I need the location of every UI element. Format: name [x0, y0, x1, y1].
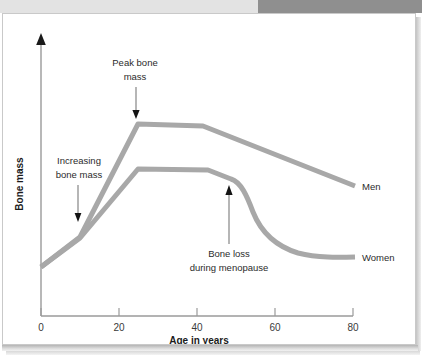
- figure-panel: 0 20 40 60 80 Age in years Bone mass Men…: [2, 13, 416, 345]
- series-line-men: [41, 124, 355, 267]
- top-decorative-strip-dark: [258, 0, 422, 13]
- annotation-increasing-bone-mass-line1: Increasing: [57, 155, 101, 166]
- annotation-peak-bone-mass-arrowhead: [132, 110, 139, 119]
- y-axis-arrowhead: [36, 33, 46, 45]
- annotation-bone-loss-menopause-line1: Bone loss: [208, 248, 250, 259]
- annotation-peak-bone-mass-line1: Peak bone: [112, 57, 157, 68]
- annotation-bone-loss-menopause-arrowhead: [225, 185, 232, 195]
- annotation-bone-loss-menopause-line2: during menopause: [190, 262, 269, 273]
- annotation-peak-bone-mass-line2: mass: [124, 71, 147, 82]
- annotation-increasing-bone-mass-arrowhead: [75, 213, 82, 222]
- y-axis-title: Bone mass: [14, 157, 25, 211]
- panel-right-shadow: [416, 17, 421, 351]
- annotation-peak-bone-mass: Peak bone mass: [112, 57, 157, 119]
- series-label-men: Men: [362, 181, 380, 192]
- x-tick-label-80: 80: [347, 322, 359, 333]
- x-tick-label-20: 20: [113, 322, 125, 333]
- x-tick-label-0: 0: [38, 322, 44, 333]
- x-axis-ticks: [41, 308, 353, 316]
- x-tick-label-60: 60: [269, 322, 281, 333]
- annotation-increasing-bone-mass-line2: bone mass: [56, 169, 103, 180]
- x-tick-label-40: 40: [191, 322, 203, 333]
- panel-bottom-shadow-secondary: [6, 351, 420, 355]
- series-label-women: Women: [362, 252, 395, 263]
- annotation-bone-loss-menopause: Bone loss during menopause: [190, 185, 269, 273]
- bone-mass-chart: 0 20 40 60 80 Age in years Bone mass Men…: [3, 14, 415, 344]
- x-axis-title: Age in years: [169, 335, 229, 344]
